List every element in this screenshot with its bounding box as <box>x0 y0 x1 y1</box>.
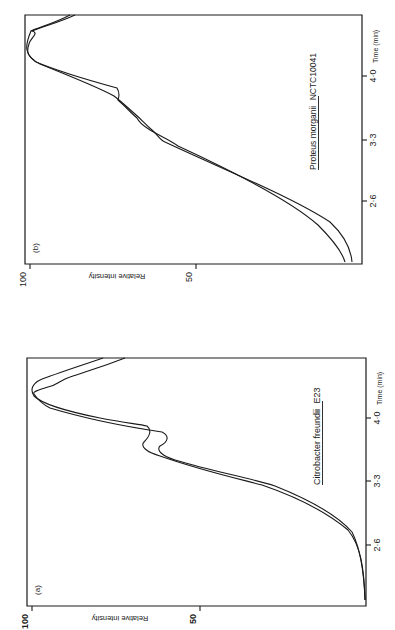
panel-a-xtick-label-2-6: 2·6 <box>372 538 382 551</box>
panel-a-xtick-label-4-0: 4·0 <box>372 411 382 424</box>
panel-b-xtick-label-4-0: 4·0 <box>368 69 378 82</box>
panel-b-letter: (b) <box>31 243 40 253</box>
panel-b: 100 50 2·6 3·3 4·0 Time (min) Relative i… <box>18 15 380 287</box>
panel-b-ytick-label-50: 50 <box>184 272 194 282</box>
svg-text:Citrobacter freundii E: Citrobacter freundii E23 <box>312 387 322 485</box>
panel-a-organism-name: Citrobacter freundii <box>312 409 322 485</box>
panel-a-organism-label: Citrobacter freundii E23 <box>312 387 323 485</box>
panel-a-xtick-label-3-3: 3·3 <box>372 474 382 487</box>
panel-a-letter: (a) <box>33 585 42 595</box>
panel-a-ytick-label-100: 100 <box>20 614 30 629</box>
panel-b-trace-2 <box>27 15 352 262</box>
panel-a-ytick-label-50: 50 <box>188 614 198 624</box>
panel-a-strain: E23 <box>312 387 322 403</box>
panel-b-ytick-label-100: 100 <box>18 272 28 287</box>
panel-a-xlabel: Time (min) <box>376 372 384 405</box>
panel-b-ylabel: Relative intensity <box>88 272 145 281</box>
panel-a-ylabel: Relative intensity <box>91 614 148 623</box>
panel-b-xtick-label-2-6: 2·6 <box>368 194 378 207</box>
panel-a: 100 50 2·6 3·3 4·0 Time (min) Relative i… <box>20 358 384 629</box>
chromatogram-figure: 100 50 2·6 3·3 4·0 Time (min) Relative i… <box>0 0 395 630</box>
panel-b-strain: NCTC10041 <box>308 53 318 101</box>
panel-b-xlabel: Time (min) <box>372 30 380 63</box>
panel-b-organism-label: Proteus morganii NCTC10041 <box>308 53 319 170</box>
panel-b-xtick-label-3-3: 3·3 <box>368 133 378 146</box>
panel-b-trace-1 <box>28 15 345 262</box>
panel-b-organism-name: Proteus morganii <box>308 106 318 170</box>
svg-text:Proteus morganii NCTC1: Proteus morganii NCTC10041 <box>308 53 318 170</box>
